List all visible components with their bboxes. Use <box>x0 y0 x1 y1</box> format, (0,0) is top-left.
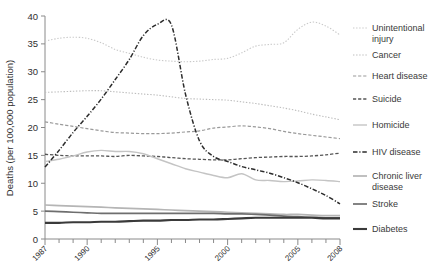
series-line-hiv-disease <box>45 19 340 203</box>
y-tick-label: 35 <box>27 38 38 49</box>
series-line-diabetes <box>45 218 340 223</box>
legend-label: HIV disease <box>372 147 421 157</box>
y-tick-label: 15 <box>27 150 38 161</box>
legend-label: Heart disease <box>372 71 428 81</box>
series-line-heart-disease <box>45 122 340 139</box>
x-tick-label: 1987 <box>30 244 49 263</box>
legend-label: injury <box>372 34 394 44</box>
series-group <box>45 19 340 222</box>
x-tick-label: 1995 <box>143 244 162 263</box>
legend-label: Cancer <box>372 50 401 60</box>
chart-container: 0510152025303540Deaths (per 100,000 popu… <box>0 0 437 273</box>
legend-label: Diabetes <box>372 224 408 234</box>
y-tick-label: 20 <box>27 122 38 133</box>
y-tick-label: 10 <box>27 178 38 189</box>
x-tick-label: 2005 <box>283 244 302 263</box>
y-axis-title: Deaths (per 100,000 population) <box>4 60 15 196</box>
y-tick-label: 0 <box>33 234 38 245</box>
series-line-cancer <box>45 91 340 120</box>
x-tick-label: 2008 <box>325 244 344 263</box>
y-tick-label: 5 <box>33 206 38 217</box>
series-line-homicide <box>45 150 340 181</box>
legend-label: Suicide <box>372 94 402 104</box>
x-tick-label: 2000 <box>213 244 232 263</box>
y-tick-label: 25 <box>27 94 38 105</box>
series-line-unintentional-injury <box>45 22 340 62</box>
legend-label: Homicide <box>372 120 410 130</box>
y-tick-label: 30 <box>27 66 38 77</box>
x-tick-label: 1990 <box>73 244 92 263</box>
y-axis: 0510152025303540 <box>27 11 45 245</box>
y-tick-label: 40 <box>27 11 38 22</box>
series-line-suicide <box>45 153 340 160</box>
legend-label: Stroke <box>372 199 398 209</box>
legend-label: disease <box>372 182 403 192</box>
legend-label: Unintentional <box>372 23 425 33</box>
legend: UnintentionalinjuryCancerHeart diseaseSu… <box>353 23 428 234</box>
x-axis: 198719901995200020052008 <box>30 239 344 263</box>
line-chart: 0510152025303540Deaths (per 100,000 popu… <box>0 0 437 273</box>
legend-label: Chronic liver <box>372 171 422 181</box>
